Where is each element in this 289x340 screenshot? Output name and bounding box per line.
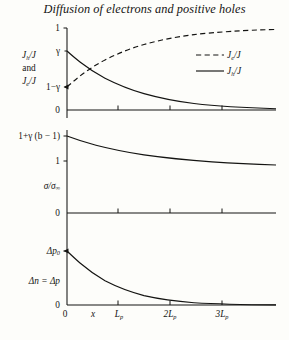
legend-label-jh: Jh/J: [227, 66, 241, 76]
panel2-ytick-0: 0: [46, 208, 60, 219]
xtick-0: 0: [63, 309, 68, 320]
panel1-ytick-1: 1: [46, 23, 60, 34]
curve-sigma-ratio: [67, 136, 276, 165]
xtick-3lp: 3Lp: [216, 309, 229, 320]
panel-3-curves: [67, 251, 276, 305]
panel-3-axes: [64, 221, 277, 305]
panel-2-curves: [67, 136, 276, 165]
panel1-axis-label-line1: Jh/J: [8, 49, 50, 62]
panel1-ytick-0: 0: [46, 105, 60, 116]
curve-je-over-j: [67, 29, 276, 87]
curve-jh-over-j: [67, 51, 276, 109]
legend-label-je: Je/J: [227, 50, 241, 60]
curve-delta-p: [67, 251, 276, 305]
panel1-axis-label: Jh/J and Je/J: [8, 49, 50, 89]
xtick-x: x: [91, 309, 95, 320]
panel3-ytick-dp0: Δp0: [24, 246, 60, 257]
xtick-lp: Lp: [115, 309, 123, 320]
figure-container: Diffusion of electrons and positive hole…: [0, 0, 289, 340]
panel-2-axes: [64, 130, 277, 221]
panel1-axis-label-line2: and: [8, 62, 50, 75]
panel2-ytick-1: 1: [46, 156, 60, 167]
xtick-2lp: 2Lp: [164, 309, 177, 320]
panel1-axis-label-line3: Je/J: [8, 76, 50, 89]
panel2-axis-label: σ/σ∞: [14, 181, 60, 192]
panel3-ytick-0: 0: [46, 300, 60, 311]
panel3-axis-label: Δn = Δp: [8, 276, 60, 287]
panel-1-legend-marks: [196, 55, 224, 71]
panel-1-curves: [67, 29, 276, 108]
panel2-ytick-top: 1+γ (b − 1): [0, 131, 60, 142]
